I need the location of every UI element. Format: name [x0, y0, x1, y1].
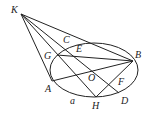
- label-C: C: [63, 34, 70, 45]
- label-H: H: [91, 100, 100, 111]
- label-F: F: [117, 76, 125, 87]
- segment-KA: [21, 14, 52, 81]
- label-a: a: [70, 95, 75, 106]
- label-A: A: [44, 83, 52, 94]
- label-K: K: [10, 4, 19, 15]
- label-G: G: [44, 50, 51, 61]
- label-B: B: [135, 49, 141, 60]
- segment-KD: [21, 14, 119, 93]
- label-O: O: [88, 72, 95, 83]
- label-D: D: [120, 95, 129, 106]
- geometry-diagram: KCEGBOAFHDa: [0, 0, 150, 116]
- label-E: E: [75, 43, 82, 54]
- ellipse: [50, 43, 138, 97]
- segments: [21, 14, 133, 97]
